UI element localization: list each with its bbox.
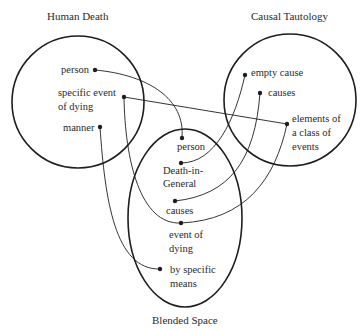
dot-blend-causes [173,199,177,203]
label-means-1: by specific [170,264,216,276]
label-event-2: dying [169,243,193,255]
label-blend-causes: causes [166,205,193,217]
dot-blend-means [158,267,162,271]
label-blend-person: person [177,141,205,153]
label-elements-2: a class of [292,127,331,139]
label-causes: causes [268,87,295,99]
label-specific-event-1: specific event [58,87,116,99]
label-person: person [61,64,89,76]
dot-elements [285,122,289,126]
label-empty-cause: empty cause [251,67,303,79]
label-manner: manner [63,122,95,134]
dot-specific-event [122,95,126,99]
dot-empty-cause [243,73,247,77]
dot-person [93,68,97,72]
dot-blend-person [180,136,184,140]
label-elements-1: elements of [292,113,341,125]
label-death-1: Death-in- [163,165,203,177]
label-event-1: event of [169,229,203,241]
human-death-title: Human Death [47,10,108,22]
label-elements-3: events [292,141,319,153]
label-death-2: General [163,178,196,190]
dot-manner [98,125,102,129]
blended-space-title: Blended Space [152,314,218,326]
label-specific-event-2: of dying [58,101,93,113]
dot-blend-event [179,221,183,225]
link-specific-event-to-elements [124,97,287,124]
causal-tautology-circle [224,34,356,166]
label-means-2: means [170,278,197,290]
dot-causes [258,91,262,95]
causal-tautology-title: Causal Tautology [251,10,328,22]
